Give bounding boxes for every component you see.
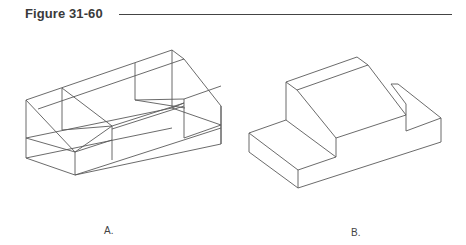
panel-b-label: B. <box>351 227 360 238</box>
figure-b-solid <box>0 0 466 245</box>
panel-a-label: A. <box>104 225 113 236</box>
